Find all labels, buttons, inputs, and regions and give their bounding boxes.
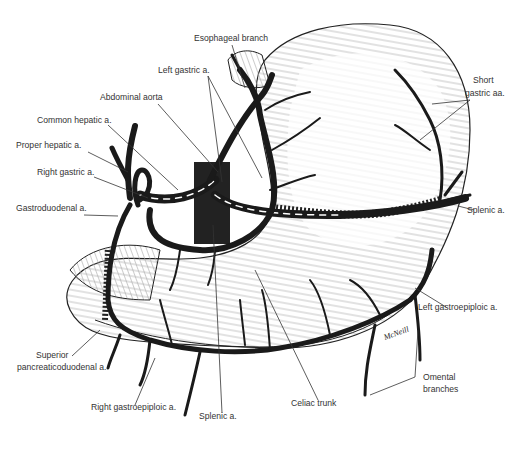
label-superior-pd-line1: Superior <box>36 350 68 360</box>
label-splenic-bottom: Splenic a. <box>199 411 237 421</box>
label-esophageal-branch: Esophageal branch <box>194 33 268 43</box>
label-short-gastric-line1: Short <box>473 75 494 85</box>
label-gastroduodenal: Gastroduodenal a. <box>16 203 87 213</box>
label-omental-line2: branches <box>423 384 458 394</box>
label-common-hepatic: Common hepatic a. <box>37 115 112 125</box>
stomach-arterial-supply-diagram: McNeill Esophageal branch Left gastric a… <box>0 0 518 454</box>
label-celiac-trunk: Celiac trunk <box>291 398 336 408</box>
label-right-gastroepiploic: Right gastroepiploic a. <box>91 402 176 412</box>
label-proper-hepatic: Proper hepatic a. <box>16 140 81 150</box>
label-omental-line1: Omental <box>423 372 455 382</box>
label-abdominal-aorta: Abdominal aorta <box>100 92 163 102</box>
label-right-gastric: Right gastric a. <box>37 167 94 177</box>
label-short-gastric-line2: gastric aa. <box>465 88 505 98</box>
label-left-gastroepiploic: Left gastroepiploic a. <box>418 302 497 312</box>
label-superior-pd-line2: pancreaticoduodenal a. <box>17 362 106 372</box>
label-left-gastric: Left gastric a. <box>158 65 210 75</box>
label-splenic-right: Splenic a. <box>467 205 505 215</box>
artist-signature: McNeill <box>382 324 411 342</box>
